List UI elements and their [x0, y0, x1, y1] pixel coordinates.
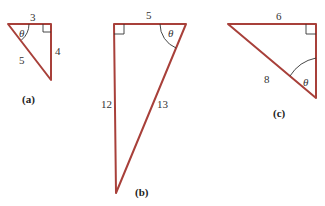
- angle-arc-c: [290, 58, 316, 76]
- triangle-c: θ 6 8 (c): [228, 10, 316, 120]
- right-triangles-diagram: θ 3 4 5 (a) θ 5 12 13 (b) θ 6 8 (c): [0, 0, 325, 206]
- triangle-b-outline: [114, 24, 186, 193]
- side-label-b-hypotenuse: 13: [157, 98, 169, 110]
- side-label-c-top: 6: [276, 10, 282, 22]
- caption-a: (a): [22, 93, 35, 106]
- right-angle-marker-c: [306, 24, 316, 34]
- side-label-b-top: 5: [146, 9, 152, 21]
- triangle-a: θ 3 4 5 (a): [8, 11, 61, 106]
- theta-label-b: θ: [168, 27, 174, 39]
- theta-label-c: θ: [303, 76, 309, 88]
- caption-b: (b): [135, 186, 149, 199]
- caption-c: (c): [273, 107, 286, 120]
- side-label-a-right: 4: [55, 45, 61, 57]
- side-label-a-hypotenuse: 5: [19, 54, 25, 66]
- side-label-b-left: 12: [101, 98, 112, 110]
- triangle-b: θ 5 12 13 (b): [101, 9, 186, 199]
- right-angle-marker-b: [114, 24, 124, 34]
- right-angle-marker-a: [43, 24, 51, 32]
- theta-label-a: θ: [19, 27, 25, 39]
- side-label-a-top: 3: [30, 11, 36, 23]
- side-label-c-hypotenuse: 8: [264, 73, 270, 85]
